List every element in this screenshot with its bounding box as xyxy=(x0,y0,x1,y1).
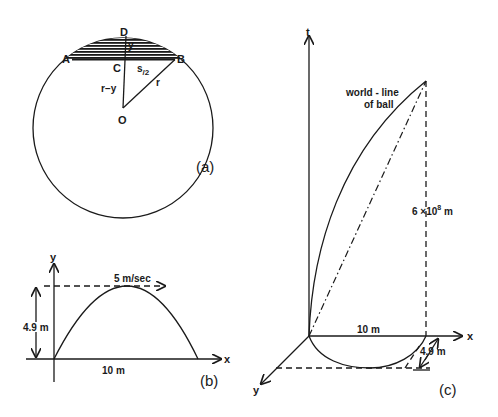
point-c-label: C xyxy=(113,62,121,74)
range-label: 10 m xyxy=(102,365,125,376)
s-half-label: s/2 xyxy=(137,63,150,77)
y-axis xyxy=(261,336,309,384)
t-axis-label: t xyxy=(306,26,310,38)
x-axis-label: x xyxy=(224,353,231,365)
y-label: y xyxy=(128,40,134,51)
height-label: 4.9 m xyxy=(23,322,49,333)
worldline-label-1: world - line xyxy=(345,87,399,98)
r-label: r xyxy=(156,77,160,88)
caption-c: (c) xyxy=(439,381,457,398)
point-d-label: D xyxy=(120,26,128,38)
time-label: 6 ×108 m xyxy=(412,204,453,217)
panel-b-trajectory: y x 5 m/sec 4.9 m 10 m (b) xyxy=(23,251,231,389)
height-guide-dashed xyxy=(405,345,420,368)
y-axis-label: y xyxy=(50,251,57,263)
figure-canvas: D y A B C s/2 r−y r O (a) y x 5 m/sec 4.… xyxy=(0,0,498,417)
x-axis-label: x xyxy=(467,330,474,342)
worldline-label-2: of ball xyxy=(364,99,394,110)
velocity-label: 5 m/sec xyxy=(114,273,151,284)
r-minus-y-label: r−y xyxy=(101,83,117,94)
y-axis-label: y xyxy=(253,384,260,396)
straight-chord-dashdot xyxy=(309,81,426,336)
panel-a-circle-segment: D y A B C s/2 r−y r O (a) xyxy=(33,26,214,218)
circle xyxy=(33,38,213,218)
hatched-segment xyxy=(33,38,213,218)
panel-c-spacetime: t x y world - line of ball 6 ×108 m 10 m… xyxy=(253,26,474,398)
caption-a: (a) xyxy=(196,158,214,175)
radius-ob xyxy=(123,60,175,109)
parabola-path xyxy=(54,286,198,359)
point-a-label: A xyxy=(62,53,70,65)
range-label: 10 m xyxy=(357,324,380,335)
point-o-label: O xyxy=(118,114,127,126)
point-b-label: B xyxy=(177,53,185,65)
height-label: 4.9 m xyxy=(420,346,446,357)
caption-b: (b) xyxy=(200,372,218,389)
